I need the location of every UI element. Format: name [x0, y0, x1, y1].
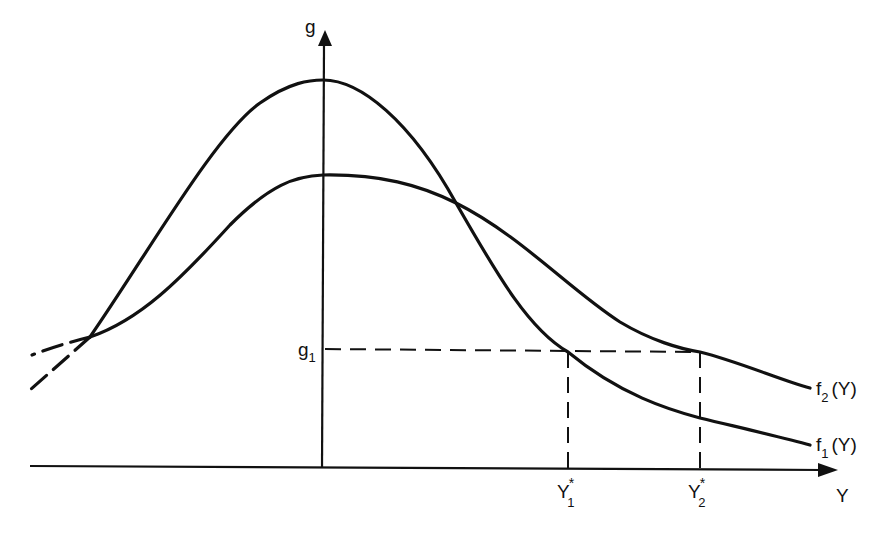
arrowhead-icon — [818, 463, 838, 477]
vertical-axis — [318, 30, 332, 468]
diagram-canvas: Y g g1 f2(Y) f1(Y) Y*1 Y*2 — [0, 0, 893, 536]
horizontal-axis — [30, 463, 838, 477]
vertical-axis-label: g — [305, 16, 316, 37]
horizontal-axis-label: Y — [836, 485, 849, 506]
curve-f1-label: f1(Y) — [816, 434, 857, 461]
diagram-figure: Y g g1 f2(Y) f1(Y) Y*1 Y*2 — [0, 0, 893, 536]
curve-f2 — [90, 175, 810, 388]
level-g1-label: g1 — [298, 339, 316, 365]
marker-y1-star-label: Y*1 — [557, 475, 575, 510]
arrowhead-icon — [318, 30, 332, 46]
marker-y2-star-label: Y*2 — [688, 475, 706, 510]
curve-f2-label: f2(Y) — [816, 378, 857, 405]
level-g1-line — [325, 349, 700, 352]
curve-f1 — [90, 80, 810, 445]
